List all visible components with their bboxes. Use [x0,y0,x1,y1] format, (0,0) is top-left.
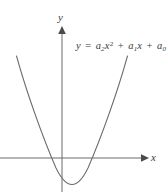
equation-equals: = [84,40,93,51]
equation-term3-subscript: 0 [162,45,166,53]
parabola-curve [17,56,128,185]
equation-plus-two: + [145,40,154,51]
plot-canvas [0,0,168,192]
parabola-figure: y x y = a2x2 + a1x + a0 [0,0,168,192]
equation-term2-variable: x [137,40,142,51]
equation-annotation: y = a2x2 + a1x + a0 [76,40,166,52]
y-axis-arrowhead-icon [58,26,66,34]
x-axis-label: x [151,152,156,163]
equation-term1-exponent: 2 [110,40,114,48]
x-axis-arrowhead-icon [141,154,149,162]
y-axis-label: y [58,12,63,23]
equation-plus-one: + [116,40,125,51]
equation-lhs: y [76,40,81,51]
